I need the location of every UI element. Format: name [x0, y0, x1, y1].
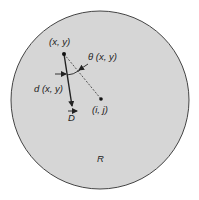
origin-point [62, 52, 66, 56]
region-label: R [97, 153, 104, 164]
target-label: (i, j) [92, 104, 108, 115]
angle-label: θ (x, y) [88, 51, 117, 62]
distance-label: d (x, y) [34, 83, 63, 94]
diagram-canvas: (x, y) θ (x, y) d (x, y) (i, j) D R [0, 0, 199, 200]
direction-label: D [68, 112, 75, 123]
origin-label: (x, y) [49, 36, 70, 47]
target-point [99, 97, 103, 101]
